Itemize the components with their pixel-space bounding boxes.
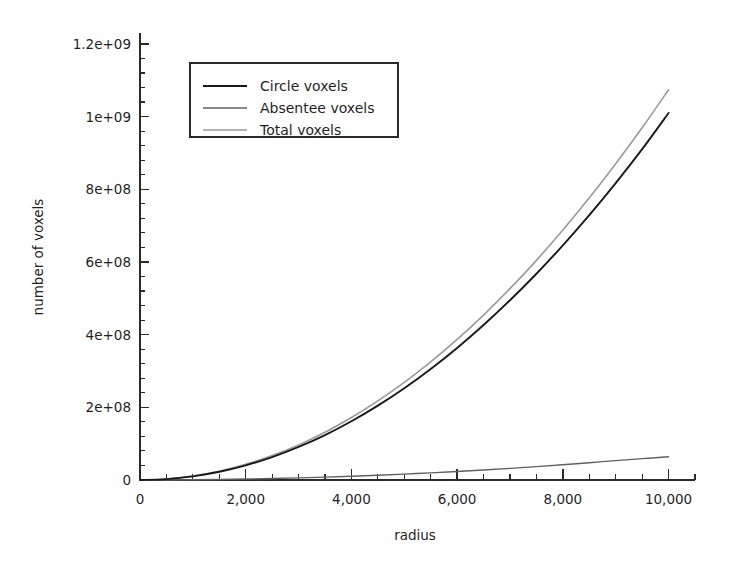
y-tick-label: 2e+08 — [86, 399, 131, 415]
series-lines — [140, 90, 669, 480]
y-tick-label: 1e+09 — [86, 109, 131, 125]
y-tick-label: 8e+08 — [86, 181, 131, 197]
chart-figure: number of voxels radius 02e+084e+086e+08… — [0, 0, 746, 565]
y-axis-major-ticks — [140, 44, 149, 480]
y-tick-label: 4e+08 — [86, 327, 131, 343]
x-tick-label: 2,000 — [226, 491, 265, 507]
y-tick-label: 1.2e+09 — [73, 36, 131, 52]
series-line-circle-voxels — [140, 113, 669, 480]
y-axis-tick-labels: 02e+084e+086e+088e+081e+091.2e+09 — [73, 36, 131, 488]
y-axis-title: number of voxels — [30, 199, 46, 316]
x-tick-label: 10,000 — [645, 491, 692, 507]
series-line-total-voxels — [140, 90, 669, 480]
x-axis-title: radius — [394, 527, 436, 543]
x-tick-label: 4,000 — [332, 491, 371, 507]
legend-label-circle-voxels: Circle voxels — [260, 78, 348, 94]
legend-label-absentee-voxels: Absentee voxels — [260, 100, 374, 116]
legend-label-total-voxels: Total voxels — [259, 122, 341, 138]
x-tick-label: 6,000 — [438, 491, 477, 507]
chart-legend: Circle voxelsAbsentee voxelsTotal voxels — [190, 63, 398, 138]
y-tick-label: 6e+08 — [86, 254, 131, 270]
y-tick-label: 0 — [122, 472, 131, 488]
x-axis-tick-labels: 02,0004,0006,0008,00010,000 — [136, 491, 692, 507]
x-tick-label: 0 — [136, 491, 145, 507]
line-chart-canvas: number of voxels radius 02e+084e+086e+08… — [0, 0, 746, 565]
x-tick-label: 8,000 — [544, 491, 583, 507]
